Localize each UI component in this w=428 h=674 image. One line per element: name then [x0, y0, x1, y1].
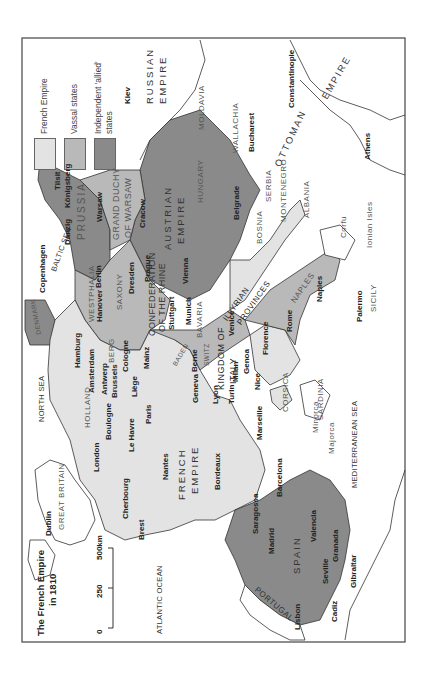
city-seville: Seville — [322, 559, 330, 584]
city-copenhagen: Copenhagen — [39, 245, 47, 293]
scale-tick-250: 250 — [96, 585, 104, 598]
city-cadiz: Cadiz — [331, 601, 339, 622]
city-naples: Naples — [316, 276, 324, 302]
map-shapes — [0, 0, 428, 674]
city-brest: Brest — [138, 520, 146, 540]
label-russian-empire-2: EMPIRE — [158, 56, 168, 104]
label-corfu: Corfu — [340, 216, 348, 238]
legend-label-allied-states-2: states — [105, 111, 114, 134]
label-hungary: HUNGARY — [197, 160, 205, 203]
city-hanover: Hanover — [96, 290, 104, 322]
city-liege: Liège — [131, 376, 139, 397]
city-kiev: Kiev — [124, 87, 132, 104]
city-athens: Athens — [364, 133, 372, 160]
label-bosnia: BOSNIA — [256, 211, 264, 244]
city-cologne: Cologne — [122, 340, 130, 372]
scale-tick-0: 0 — [96, 630, 104, 634]
label-berg: BERG — [108, 338, 116, 363]
label-switz: SWITZ — [204, 343, 211, 366]
label-majorca: Majorca — [328, 422, 336, 454]
label-kingdom-of-italy: KINGDOM OF — [217, 327, 226, 390]
label-of-the-rhine: OF THE RHINE — [158, 263, 167, 332]
city-boulogne: Boulogne — [105, 403, 113, 440]
label-russian-empire: RUSSIAN — [145, 48, 155, 104]
city-stuttgart: Stuttgart — [168, 297, 176, 330]
city-nantes: Nantes — [162, 453, 170, 480]
label-french-empire-2: EMPIRE — [190, 446, 200, 494]
city-geneva: Geneva — [192, 374, 200, 403]
map-figure: French Empire Vassal states Independent … — [0, 0, 428, 674]
city-nice: Nice — [254, 373, 262, 390]
city-warsaw: Warsaw — [96, 192, 104, 222]
city-marseille: Marseille — [256, 406, 264, 440]
city-lyon: Lyon — [212, 385, 220, 404]
label-north-sea: NORTH SEA — [38, 376, 46, 422]
city-valencia: Valencia — [310, 510, 318, 542]
city-genoa: Genoa — [243, 349, 251, 374]
city-venice: Venice — [228, 311, 236, 336]
map-title: The French Empire — [36, 550, 46, 636]
label-moldavia: MOLDAVIA — [198, 85, 206, 130]
label-mediterranean-sea: MEDITERRANEAN SEA — [351, 401, 359, 488]
city-mainz: Mainz — [143, 347, 151, 369]
label-sicily: SICILY — [370, 284, 378, 312]
label-saxony: SAXONY — [116, 274, 124, 310]
label-wallachia: WALLACHIA — [232, 103, 240, 153]
scale-tick-500km: 500km — [96, 535, 104, 560]
label-of-warsaw: OF WARSAW — [124, 178, 133, 238]
label-great-britain: GREAT BRITAIN — [58, 463, 66, 530]
city-bordeaux: Bordeaux — [214, 453, 222, 490]
legend-swatch-allied-states — [94, 138, 116, 170]
city-hamburg: Hamburg — [74, 333, 82, 368]
map-title-year: in 1810 — [48, 574, 58, 606]
city-danzig: Danzig — [64, 219, 72, 245]
label-montenegro: MONTENEGRO — [280, 159, 288, 222]
city-dresden: Dresden — [128, 262, 136, 294]
label-spain: SPAIN — [292, 536, 302, 574]
city-konigsberg: Königsberg — [64, 164, 72, 208]
label-prussia: PRUSSIA — [77, 182, 87, 240]
city-le-havre: Le Havre — [128, 418, 136, 452]
city-munich: Munich — [185, 297, 193, 325]
city-cracow: Cracow — [139, 199, 147, 228]
city-berlin: Berlin — [95, 265, 103, 288]
label-ionian-isles: Ionian Isles — [366, 202, 374, 248]
city-bucharest: Bucharest — [248, 113, 256, 152]
city-vienna: Vienna — [182, 258, 190, 284]
city-belgrade: Belgrade — [233, 186, 241, 220]
city-milan: Milan — [232, 362, 240, 382]
label-corsica: CORSICA — [282, 372, 290, 412]
city-constantinople: Constantinople — [288, 50, 296, 108]
city-saragossa: Saragossa — [252, 494, 260, 534]
label-albania: ALBANIA — [303, 181, 311, 218]
city-tilsit: Tilsit — [54, 171, 62, 190]
city-london: London — [93, 443, 101, 472]
city-brussels: Brussels — [111, 364, 119, 398]
city-lisbon: Lisbon — [294, 604, 302, 630]
label-grand-duchy: GRAND DUCHY — [112, 167, 121, 240]
legend-label-allied-states: Independent 'allied' — [94, 61, 103, 134]
city-rome: Rome — [286, 310, 294, 332]
label-serbia: SERBIA — [265, 170, 273, 202]
city-turin: Turin — [228, 385, 236, 404]
city-gibraltar: Gibraltar — [350, 555, 358, 588]
label-bavaria: BAVARIA — [196, 301, 204, 338]
city-cherbourg: Cherbourg — [122, 478, 130, 519]
legend-label-vassal-states: Vassal states — [70, 84, 79, 134]
city-paris: Paris — [145, 404, 153, 424]
label-french-empire: FRENCH — [177, 448, 187, 500]
city-antwerp: Antwerp — [101, 363, 109, 395]
label-austrian-empire: AUSTRIAN — [163, 186, 173, 250]
city-madrid: Madrid — [268, 528, 276, 554]
legend-swatch-french-empire — [34, 138, 56, 170]
city-amsterdam: Amsterdam — [88, 349, 96, 393]
city-prague: Prague — [144, 255, 152, 282]
city-palermo: Palermo — [356, 290, 364, 322]
label-minorca: Minorca — [312, 401, 320, 433]
city-dublin: Dublin — [45, 511, 53, 536]
city-granada: Granada — [332, 530, 340, 562]
city-florence: Florence — [262, 322, 270, 355]
city-berne: Berne — [191, 349, 199, 372]
label-atlantic-ocean: ATLANTIC OCEAN — [156, 565, 164, 634]
legend-label-french-empire: French Empire — [40, 78, 49, 134]
